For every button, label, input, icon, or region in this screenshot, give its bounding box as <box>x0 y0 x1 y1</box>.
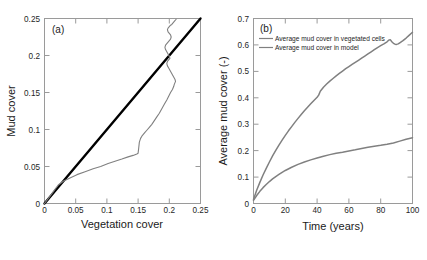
panel-a-xtick-1: 0.05 <box>68 206 84 215</box>
panel-b-xtick-1: 20 <box>281 206 291 215</box>
panel-b-vegetated-cells-line <box>254 32 413 199</box>
panel-b-ytick-3: 0.3 <box>238 120 250 129</box>
panel-b-xtick-2: 40 <box>313 206 323 215</box>
panel-b-legend: Average mud cover in vegetated cells Ave… <box>259 35 386 52</box>
panel-a-ytick-4: 0.2 <box>29 52 41 61</box>
panel-a-svg: 0 0.05 0.1 0.15 0.2 0.25 0 0.05 0.1 0.15… <box>0 0 215 260</box>
panel-b-xtick-5: 100 <box>406 206 420 215</box>
panel-b-ytick-0: 0 <box>244 200 249 209</box>
panel-a-ytick-2: 0.1 <box>29 126 41 135</box>
panel-b-ytick-2: 0.2 <box>238 147 250 156</box>
panel-a-ytick-3: 0.15 <box>24 89 40 98</box>
panel-b-xtick-4: 80 <box>376 206 386 215</box>
panel-b-series-group <box>254 32 413 200</box>
panel-a-tag: (a) <box>52 24 64 35</box>
panel-a-xtick-0: 0 <box>42 206 47 215</box>
panel-b-xtick-3: 60 <box>344 206 354 215</box>
panel-a-ytick-1: 0.05 <box>24 163 40 172</box>
panel-a-ytick-0: 0 <box>35 200 40 209</box>
panel-a-ylabel: Mud cover <box>5 85 17 137</box>
figure-container: 0 0.05 0.1 0.15 0.2 0.25 0 0.05 0.1 0.15… <box>0 0 427 260</box>
panel-b-ytick-4: 0.4 <box>238 94 250 103</box>
panel-a-ytick-5: 0.25 <box>24 15 40 24</box>
panel-b: 0 20 40 60 80 100 0 0.1 0.2 0.3 0.4 0.5 … <box>215 0 427 260</box>
panel-b-ylabel: Average mud cover (-) <box>217 56 229 165</box>
panel-b-ytick-6: 0.6 <box>238 41 250 50</box>
legend-label-vegetated-cells: Average mud cover in vegetated cells <box>275 35 386 43</box>
panel-a: 0 0.05 0.1 0.15 0.2 0.25 0 0.05 0.1 0.15… <box>0 0 215 260</box>
panel-a-xlabel: Vegetation cover <box>81 218 163 230</box>
panel-a-xtick-2: 0.1 <box>101 206 113 215</box>
panel-a-reference-line <box>45 19 201 204</box>
panel-a-xtick-3: 0.15 <box>130 206 146 215</box>
panel-b-ytick-1: 0.1 <box>238 173 250 182</box>
panel-a-series-group <box>45 19 201 204</box>
panel-a-trajectory-line <box>45 19 177 203</box>
panel-a-xtick-4: 0.2 <box>164 206 176 215</box>
panel-b-ytick-7: 0.7 <box>238 15 250 24</box>
panel-b-tag: (b) <box>260 23 272 34</box>
panel-b-ytick-5: 0.5 <box>238 67 250 76</box>
panel-b-xtick-0: 0 <box>251 206 256 215</box>
legend-label-model: Average mud cover in model <box>275 44 359 52</box>
panel-a-xtick-5: 0.25 <box>193 206 209 215</box>
panel-b-xlabel: Time (years) <box>302 220 363 232</box>
panel-b-svg: 0 20 40 60 80 100 0 0.1 0.2 0.3 0.4 0.5 … <box>215 0 427 260</box>
